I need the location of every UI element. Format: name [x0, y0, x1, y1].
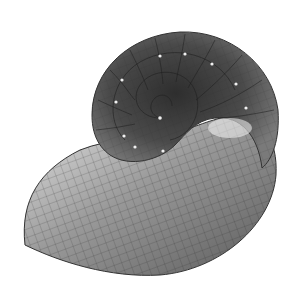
nautilus-render: Shaded nautilus shell surface with grid …	[0, 0, 301, 299]
nautilus-shell-illustration	[0, 0, 301, 299]
shell-highlight	[208, 118, 252, 138]
